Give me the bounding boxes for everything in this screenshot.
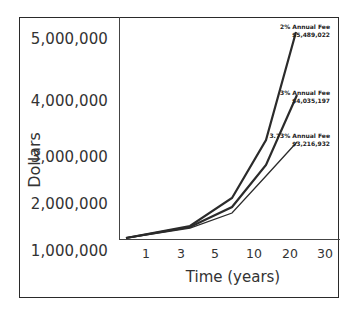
annotation-3pct: 3% Annual Fee $4,035,197 [280, 89, 330, 105]
annotation-373pct-value: $3,216,932 [269, 140, 330, 148]
chart-lines [0, 0, 360, 313]
annotation-3pct-label: 3% Annual Fee [280, 89, 330, 97]
annotation-2pct: 2% Annual Fee $5,489,022 [280, 23, 330, 39]
annotation-2pct-value: $5,489,022 [280, 31, 330, 39]
series-line-3pct [126, 95, 297, 238]
annotation-3pct-value: $4,035,197 [280, 97, 330, 105]
annotation-373pct: 3.73% Annual Fee $3,216,932 [269, 132, 330, 148]
series-line-373pct [126, 142, 297, 238]
annotation-2pct-label: 2% Annual Fee [280, 23, 330, 31]
annotation-373pct-label: 3.73% Annual Fee [269, 132, 330, 140]
